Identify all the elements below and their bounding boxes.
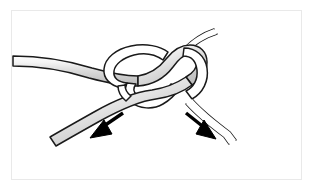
knot-diagram-illustration (0, 0, 316, 193)
figure-root (0, 0, 316, 193)
